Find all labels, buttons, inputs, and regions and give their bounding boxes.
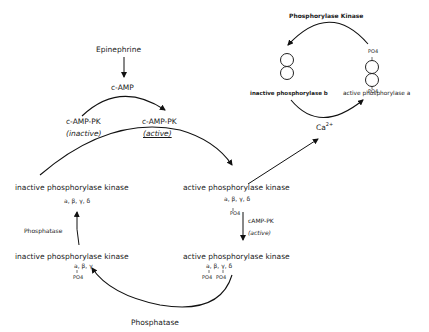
label-inactive-phk-bottom: inactive phosphorylase kinase: [15, 253, 129, 261]
arrow-phk-calcium: [248, 139, 318, 184]
phosphorylase-a-subunit-bottom: [365, 73, 379, 87]
label-active-phk-mid-subunits: a, β, γ, δ: [224, 196, 250, 202]
label-phosphorylase-kinase: Phosphorylase Kinase: [289, 13, 363, 19]
label-inactive-phk-top: inactive phosphorylase kinase: [15, 184, 129, 192]
arrow-phosphatase-left: [77, 212, 79, 245]
phosphorylase-b-subunit-top: [280, 53, 294, 67]
label-phosphatase-bottom: Phosphatase: [131, 319, 179, 327]
label-active-phk-mid-phospho: PO4: [230, 211, 240, 216]
label-active-phk-bottom: active phosphorylase kinase: [183, 253, 290, 261]
label-camppk-active-state: (active): [143, 130, 172, 138]
calcium-charge: 2+: [326, 121, 333, 127]
label-active-phk-mid: active phosphorylase kinase: [183, 184, 290, 192]
label-calcium: Ca2+: [316, 122, 333, 131]
arrow-calcium-activation: [291, 100, 363, 118]
label-camppk-inactive: c-AMP-PK: [66, 118, 101, 126]
label-epinephrine: Epinephrine: [96, 46, 141, 54]
phosphorylase-a-subunit-top: [365, 60, 379, 74]
label-inactive-phk-bottom-phospho: PO4: [73, 275, 83, 280]
diagram-arrows: [0, 0, 429, 332]
arrow-phosphorylase-kinase: [288, 22, 368, 45]
calcium-symbol: Ca: [316, 123, 326, 132]
label-po4-top: PO4: [368, 49, 378, 54]
label-camppk-2-state: (active): [248, 230, 271, 236]
label-camp: c-AMP: [111, 84, 134, 92]
label-inactive-phk-top-subunits: a, β, γ, δ: [64, 198, 90, 204]
label-active-phk-bottom-phospho-a: PO4: [202, 275, 212, 280]
arrow-camppk-activation: [82, 96, 165, 116]
label-inactive-phosphorylase-b: inactive phosphorylase b: [250, 91, 328, 97]
label-camppk-2: cAMP-PK: [248, 218, 274, 224]
label-active-phk-bottom-subunits: a, β, γ, δ: [206, 263, 232, 269]
label-active-phk-bottom-phospho-b: PO4: [216, 275, 226, 280]
phosphorylase-b-subunit-bottom: [280, 66, 294, 80]
label-camppk-active: c-AMP-PK: [142, 118, 177, 126]
label-camppk-inactive-state: (inactive): [66, 130, 102, 138]
label-phosphatase-left: Phosphatase: [24, 228, 62, 234]
label-inactive-phk-bottom-subunits: a, β, γ: [74, 263, 93, 269]
label-active-phosphorylase-a: active phosphorylase a: [343, 91, 410, 97]
